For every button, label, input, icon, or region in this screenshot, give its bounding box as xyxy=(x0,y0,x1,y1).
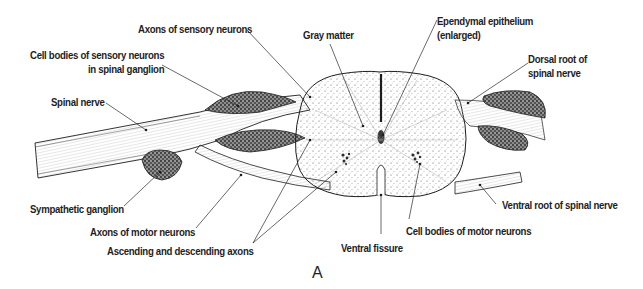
leader-dot xyxy=(335,171,338,174)
leader-dot xyxy=(240,174,243,177)
leader-dot xyxy=(145,129,148,132)
leader-dot xyxy=(362,125,365,128)
panel-letter: A xyxy=(312,264,323,282)
label-line: Gray matter xyxy=(303,28,354,42)
central-canal xyxy=(378,130,385,144)
label-line: Ventral fissure xyxy=(341,241,403,255)
anatomy-illustration xyxy=(0,0,643,289)
dorsal-root-right-shape xyxy=(455,91,545,151)
leader-dot xyxy=(467,102,470,105)
label-line: Spinal nerve xyxy=(51,95,105,109)
leader-cell-bodies-sensory xyxy=(162,65,238,106)
label-line: Dorsal root of xyxy=(528,52,587,66)
leader-axons-sensory xyxy=(247,30,310,97)
leader-dot xyxy=(380,194,383,197)
label-ascending-descending: Ascending and descending axons xyxy=(107,244,254,258)
label-cell-bodies-motor: Cell bodies of motor neurons xyxy=(406,224,531,238)
spinal-cord-diagram: Axons of sensory neuronsCell bodies of s… xyxy=(0,0,643,289)
ventral-fissure-shape xyxy=(377,165,385,195)
label-line: Sympathetic ganglion xyxy=(30,202,124,216)
leader-dot xyxy=(159,171,162,174)
label-cell-bodies-sensory: Cell bodies of sensory neuronsin spinal … xyxy=(30,48,164,76)
ventral-root-right-shape xyxy=(455,172,522,194)
label-axons-sensory: Axons of sensory neurons xyxy=(138,22,252,36)
label-line: Axons of sensory neurons xyxy=(138,22,252,36)
label-spinal-nerve: Spinal nerve xyxy=(51,95,105,109)
spinal-cord-shape xyxy=(295,71,466,196)
label-line: (enlarged) xyxy=(437,28,533,42)
leader-dot xyxy=(419,163,422,166)
label-ventral-fissure: Ventral fissure xyxy=(341,241,403,255)
leader-dot xyxy=(309,96,312,99)
label-axons-motor: Axons of motor neurons xyxy=(90,225,195,239)
leader-dot xyxy=(309,139,312,142)
leader-dot xyxy=(479,184,482,187)
label-line: Ependymal epithelium xyxy=(437,14,533,28)
label-sympathetic-ganglion: Sympathetic ganglion xyxy=(30,202,124,216)
label-line: spinal nerve xyxy=(528,66,587,80)
leader-axons-motor xyxy=(196,175,241,228)
label-gray-matter: Gray matter xyxy=(303,28,354,42)
label-ependymal-epithelium: Ependymal epithelium(enlarged) xyxy=(437,14,533,42)
label-line: Ascending and descending axons xyxy=(107,244,254,258)
leader-ascending-descending xyxy=(253,140,310,243)
label-line: Cell bodies of sensory neurons xyxy=(30,48,164,62)
leader-sympathetic-ganglion xyxy=(124,172,160,206)
label-line: in spinal ganglion xyxy=(30,62,164,76)
label-line: Axons of motor neurons xyxy=(90,225,195,239)
label-line: Ventral root of spinal nerve xyxy=(502,198,618,212)
label-ventral-root: Ventral root of spinal nerve xyxy=(502,198,618,212)
label-dorsal-root: Dorsal root ofspinal nerve xyxy=(528,52,587,80)
leader-dot xyxy=(382,134,385,137)
leader-dot xyxy=(237,105,240,108)
sympathetic-ganglion-shape xyxy=(142,150,182,180)
label-line: Cell bodies of motor neurons xyxy=(406,224,531,238)
